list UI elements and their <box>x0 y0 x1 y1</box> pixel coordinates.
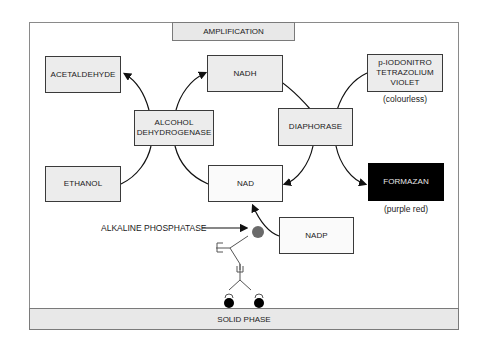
arrow-diaphorase-to-formazan <box>336 146 365 184</box>
antigen-dot-icon-left <box>224 298 234 308</box>
amplification-band: AMPLIFICATION <box>172 22 295 41</box>
node-label: ACETALDEHYDE <box>50 70 115 80</box>
node-label-line3: VIOLET <box>390 78 419 88</box>
solid-phase-label: SOLID PHASE <box>217 315 270 324</box>
node-label-line2: DEHYDROGENASE <box>137 128 212 138</box>
caption-purple-red: (purple red) <box>368 204 444 214</box>
node-acetaldehyde: ACETALDEHYDE <box>45 56 121 93</box>
node-ethanol: ETHANOL <box>45 166 121 202</box>
node-nad: NAD <box>208 165 283 202</box>
amplification-label: AMPLIFICATION <box>203 27 264 36</box>
antigen-dot-icon-right <box>254 298 264 308</box>
node-nadh: NADH <box>207 55 283 92</box>
node-label: NADP <box>305 231 328 241</box>
node-alcohol-dehydrogenase: ALCOHOL DEHYDROGENASE <box>134 110 214 146</box>
enzyme-dot-icon <box>252 226 264 238</box>
arrow-diaphorase-to-nad <box>285 146 313 184</box>
antibody-structure <box>216 236 263 298</box>
arrow-adh-to-nadh <box>176 73 205 110</box>
label-alkaline-phosphatase: ALKALINE PHOSPHATASE <box>101 223 207 233</box>
node-label-line1: p-IODONITRO <box>378 58 432 68</box>
node-formazan: FORMAZAN <box>368 163 444 201</box>
node-label-line1: ALCOHOL <box>155 118 194 128</box>
node-label: NAD <box>237 179 254 189</box>
line-ethanol-to-adh <box>121 146 151 184</box>
node-label: NADH <box>233 69 256 79</box>
caption-colourless: (colourless) <box>367 94 443 104</box>
solid-phase-band: SOLID PHASE <box>29 308 459 330</box>
node-label-line2: TETRAZOLIUM <box>376 68 434 78</box>
node-nadp: NADP <box>279 217 354 254</box>
line-nad-to-adh <box>175 146 208 184</box>
node-label: FORMAZAN <box>383 177 429 187</box>
line-pint-to-diaphorase <box>337 73 367 110</box>
arrow-adh-to-acetaldehyde <box>125 74 149 110</box>
node-diaphorase: DIAPHORASE <box>278 108 353 146</box>
node-label: ETHANOL <box>64 179 103 189</box>
node-pint-violet: p-IODONITRO TETRAZOLIUM VIOLET <box>367 54 443 92</box>
node-label: DIAPHORASE <box>289 122 342 132</box>
